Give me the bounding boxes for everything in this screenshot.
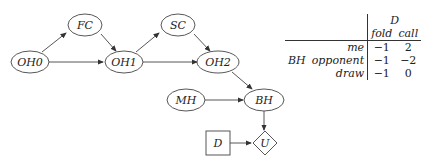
label-oh0: OH0 [17,56,43,69]
column-header-fold: fold [368,27,396,41]
label-mh: MH [175,94,197,107]
cell: −1 [368,54,396,67]
column-group-header: D [368,14,421,27]
label-oh1: OH1 [111,56,137,69]
label-oh2: OH2 [205,56,231,69]
row-label: draw [309,67,368,80]
label-fc: FC [76,19,94,32]
row-group-header: BH [285,54,309,67]
label-d: D [213,137,223,150]
edge-oh0-fc [42,33,66,52]
table-row: draw −1 0 [285,67,421,80]
cell: 0 [395,67,421,80]
table-row: BH opponent −1 −2 [285,54,421,67]
edge-sc-oh2 [194,34,210,51]
edges [42,33,264,143]
cell: −1 [368,67,396,80]
table-row: me −1 2 [285,41,421,55]
row-label: opponent [309,54,368,67]
label-sc: SC [170,19,187,32]
column-header-call: call [395,27,421,41]
row-label: me [309,41,368,55]
label-bh: BH [254,94,273,107]
cell: −2 [395,54,421,67]
label-u: U [260,137,270,150]
edge-fc-oh1 [101,34,116,51]
cell: −1 [368,41,396,55]
edge-oh1-sc [136,33,159,52]
edge-oh2-bh [232,72,252,89]
cell: 2 [395,41,421,55]
utility-table: D fold call me −1 2 BH opponent −1 −2 dr… [285,14,421,80]
